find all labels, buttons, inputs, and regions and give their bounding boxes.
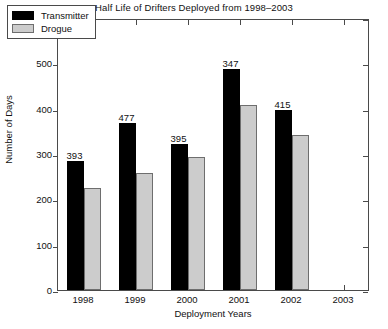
y-axis-tick-right bbox=[363, 292, 368, 293]
plot-inner: 393477395347415 bbox=[58, 20, 368, 290]
y-axis-tick-label: 500 bbox=[8, 59, 52, 69]
bar-transmitter-1999 bbox=[119, 123, 136, 290]
y-axis-tick bbox=[53, 111, 58, 112]
x-axis-tick-top bbox=[136, 20, 137, 25]
bar-value-label: 347 bbox=[208, 58, 254, 69]
y-axis-tick-label: 300 bbox=[8, 150, 52, 160]
chart-legend: TransmitterDrogue bbox=[7, 5, 96, 39]
plot-area: 393477395347415 bbox=[57, 19, 369, 291]
y-axis-tick-label: 400 bbox=[8, 105, 52, 115]
y-axis-tick-right bbox=[363, 201, 368, 202]
y-axis-title: Number of Days bbox=[3, 50, 14, 210]
y-axis-tick bbox=[53, 201, 58, 202]
x-axis-tick-label: 2002 bbox=[261, 294, 321, 306]
bar-transmitter-2000 bbox=[171, 144, 188, 290]
y-axis-tick bbox=[53, 247, 58, 248]
chart-figure: Half Life of Drifters Deployed from 1998… bbox=[0, 0, 388, 329]
x-axis-tick-top bbox=[292, 20, 293, 25]
bar-drogue-2001 bbox=[240, 105, 257, 290]
y-axis-tick-label: 200 bbox=[8, 195, 52, 205]
legend-item-label: Drogue bbox=[41, 23, 72, 34]
legend-swatch-transmitter bbox=[12, 11, 34, 20]
bar-value-label: 477 bbox=[104, 112, 150, 123]
y-axis-tick-right bbox=[363, 65, 368, 66]
x-axis-tick-labels: 199819992000200120022003 bbox=[57, 294, 369, 308]
bar-transmitter-2001 bbox=[223, 69, 240, 290]
x-axis-title: Deployment Years bbox=[57, 308, 369, 320]
x-axis-tick-label: 2000 bbox=[157, 294, 217, 306]
legend-item: Drogue bbox=[12, 22, 89, 35]
x-axis-tick-top bbox=[188, 20, 189, 25]
y-axis-tick-right bbox=[363, 247, 368, 248]
bar-value-label: 393 bbox=[52, 150, 98, 161]
legend-item-label: Transmitter bbox=[41, 10, 89, 21]
bar-drogue-1999 bbox=[136, 173, 153, 290]
x-axis-tick bbox=[344, 285, 345, 290]
bar-drogue-2002 bbox=[292, 135, 309, 290]
x-axis-tick-label: 1999 bbox=[105, 294, 165, 306]
x-axis-tick-label: 2001 bbox=[209, 294, 269, 306]
x-axis-tick-label: 2003 bbox=[313, 294, 373, 306]
bar-drogue-2000 bbox=[188, 157, 205, 290]
legend-swatch-drogue bbox=[12, 24, 34, 33]
y-axis-tick bbox=[53, 292, 58, 293]
y-axis-tick-label: 100 bbox=[8, 241, 52, 251]
bar-transmitter-2002 bbox=[275, 110, 292, 290]
y-axis-tick-right bbox=[363, 156, 368, 157]
legend-item: Transmitter bbox=[12, 9, 89, 22]
y-axis-tick bbox=[53, 65, 58, 66]
y-axis-tick-right bbox=[363, 20, 368, 21]
x-axis-tick-label: 1998 bbox=[53, 294, 113, 306]
x-axis-tick-top bbox=[344, 20, 345, 25]
x-axis-tick-top bbox=[240, 20, 241, 25]
bar-value-label: 395 bbox=[156, 133, 202, 144]
bar-transmitter-1998 bbox=[67, 161, 84, 290]
bar-drogue-1998 bbox=[84, 188, 101, 290]
bar-value-label: 415 bbox=[260, 99, 306, 110]
y-axis-tick-label: 0 bbox=[8, 286, 52, 296]
y-axis-tick-right bbox=[363, 111, 368, 112]
